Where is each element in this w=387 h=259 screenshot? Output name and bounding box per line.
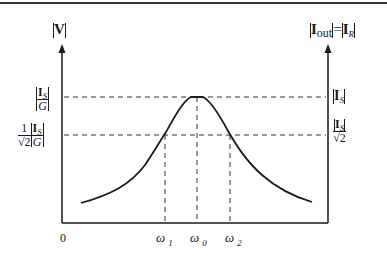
right-axis-arrow-icon (325, 44, 332, 53)
right-axis-label: Iout=IR (310, 22, 355, 38)
left-axis-arrow-icon (59, 44, 66, 53)
origin-label: 0 (60, 232, 66, 244)
left-half-power-label: 1√2ISG (18, 122, 44, 148)
omega2-label: ω2 (225, 231, 242, 244)
omega0-label: ω0 (190, 231, 207, 244)
left-peak-label: ISG (36, 86, 49, 112)
omega1-label: ω1 (156, 231, 173, 244)
left-axis-label: V (53, 22, 66, 38)
right-peak-label: IS (333, 89, 345, 104)
right-half-power-label: IS√2 (333, 118, 346, 145)
